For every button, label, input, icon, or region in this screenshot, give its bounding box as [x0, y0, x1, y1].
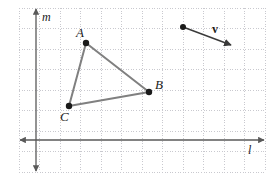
vertex-point-b	[146, 89, 152, 95]
vector-layer	[180, 24, 231, 45]
triangle-edge-ca	[69, 43, 86, 106]
vector-tail-point	[180, 24, 186, 30]
axis-label-m: m	[42, 11, 51, 23]
figure-canvas	[0, 0, 276, 184]
point-label-a: A	[76, 26, 84, 39]
triangle-edge-ab	[86, 43, 149, 92]
vertex-point-a	[83, 40, 89, 46]
point-label-b: B	[155, 78, 163, 91]
geometry-figure: A B C m l v	[0, 0, 276, 184]
vector-label-v: v	[212, 23, 218, 35]
grid-layer	[19, 8, 265, 172]
point-label-c: C	[60, 110, 69, 123]
axis-label-l: l	[248, 144, 251, 156]
